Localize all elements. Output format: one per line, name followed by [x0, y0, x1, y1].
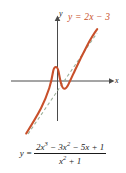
x-axis-label: x: [115, 77, 119, 85]
x-axis: [11, 78, 115, 84]
equation-fraction: 2x3 − 3x2 − 5x + 1 x2 + 1: [34, 140, 106, 167]
math-figure: y x y = 2x − 3 y = 2x3 − 3x2 − 5x + 1 x2…: [0, 0, 126, 173]
equation-lhs: y =: [20, 148, 32, 158]
numerator-term-b: − 3x: [48, 142, 67, 152]
equation-numerator: 2x3 − 3x2 − 5x + 1: [34, 140, 106, 153]
function-equation: y = 2x3 − 3x2 − 5x + 1 x2 + 1: [0, 140, 126, 167]
denominator-term-b: + 1: [66, 156, 81, 166]
numerator-term-c: − 5x + 1: [70, 142, 104, 152]
equation-denominator: x2 + 1: [57, 154, 83, 167]
asymptote-equation-label: y = 2x − 3: [68, 13, 110, 23]
y-axis-label: y: [59, 10, 63, 18]
numerator-term-a: 2x: [36, 142, 45, 152]
